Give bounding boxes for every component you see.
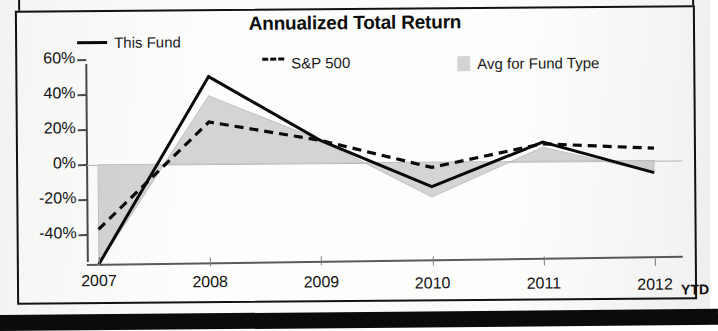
y-axis-label: 0% — [6, 154, 76, 173]
area-avg-for-fund-type — [98, 92, 655, 264]
legend-item-this-fund: This Fund — [77, 33, 181, 51]
page-bottom-bar-artifact — [0, 309, 718, 331]
chart-title: Annualized Total Return — [17, 9, 693, 36]
y-axis-tick — [78, 129, 87, 131]
series-lines — [85, 55, 683, 266]
x-axis-ytd-note: YTD — [681, 281, 709, 297]
chart-panel: Annualized Total Return This Fund S&P 50… — [15, 5, 697, 304]
y-axis-tick — [79, 234, 88, 236]
y-axis-label: 40% — [5, 84, 75, 103]
x-axis-label-2007: 2007 — [81, 272, 117, 290]
x-axis-tick — [432, 256, 433, 265]
x-axis-tick — [321, 257, 322, 266]
x-axis-tick — [655, 256, 656, 265]
legend-label-this-fund: This Fund — [114, 33, 181, 51]
y-axis-tick — [78, 199, 87, 201]
line-s-p-500 — [98, 119, 655, 230]
y-axis-label: -40% — [7, 224, 77, 243]
y-axis-label: -20% — [6, 189, 76, 208]
solid-line-swatch-icon — [77, 41, 107, 44]
x-axis-tick — [99, 257, 100, 266]
y-axis-label: 60% — [5, 49, 75, 68]
x-axis-label-2012: 2012 — [637, 276, 673, 294]
y-axis-tick — [78, 94, 87, 96]
y-axis-tick — [77, 59, 86, 61]
y-axis-tick — [78, 164, 87, 166]
x-axis-tick — [544, 256, 545, 265]
x-axis-label-2009: 2009 — [304, 273, 340, 291]
plot-area: 60%40%20%0%-20%-40%200720082009201020112… — [85, 55, 683, 266]
x-axis-label-2008: 2008 — [192, 273, 228, 291]
x-axis-label-2011: 2011 — [527, 275, 562, 293]
x-axis-label-2010: 2010 — [415, 274, 451, 292]
y-axis-label: 20% — [6, 119, 76, 138]
x-axis-tick — [210, 257, 211, 266]
